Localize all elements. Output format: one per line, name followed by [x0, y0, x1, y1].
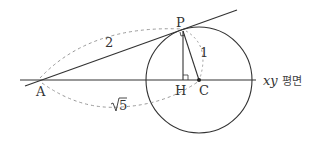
label-length-pc: 1 [200, 45, 208, 60]
label-point-p: P [176, 15, 185, 30]
label-point-a: A [35, 84, 46, 99]
label-point-c: C [199, 83, 209, 98]
label-length-ac-radicand: 5 [119, 98, 127, 113]
point-c-dot [197, 78, 201, 82]
label-point-h: H [175, 83, 186, 98]
diagram-canvas: A P H C 2 1 5 xy 평면 [0, 0, 318, 141]
label-length-ac: 5 [111, 98, 127, 113]
segment-pc [183, 31, 199, 80]
label-plane-var: xy [263, 73, 278, 88]
right-angle-mark-h [183, 75, 188, 80]
label-plane-text: 평면 [282, 75, 302, 88]
label-length-ap: 2 [105, 35, 113, 50]
